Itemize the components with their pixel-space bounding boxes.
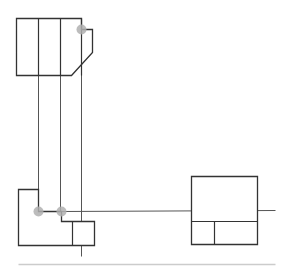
side-view-outline xyxy=(192,177,258,245)
drawing-canvas xyxy=(0,0,291,272)
front-view-outline xyxy=(19,190,95,246)
vertex-marker[interactable] xyxy=(34,207,44,217)
vertex-marker[interactable] xyxy=(77,25,87,35)
side-view xyxy=(192,177,258,245)
vertex-marker[interactable] xyxy=(57,207,67,217)
front-view xyxy=(19,190,95,246)
